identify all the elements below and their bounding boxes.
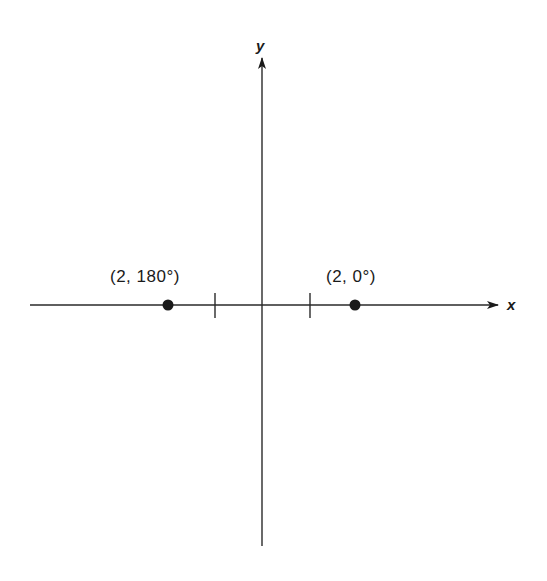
point-2-180-label: (2, 180°)	[110, 267, 180, 286]
x-axis-label: x	[506, 296, 516, 313]
polar-coordinate-diagram: x y (2, 180°) (2, 0°)	[0, 0, 547, 581]
point-2-180	[163, 300, 174, 311]
y-axis-label: y	[255, 37, 265, 54]
point-2-0-label: (2, 0°)	[326, 267, 376, 286]
point-2-0	[350, 300, 361, 311]
